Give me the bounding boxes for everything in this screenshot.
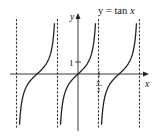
y-tick-label: 1: [69, 58, 74, 68]
x-tick-label-numerator: π: [97, 78, 101, 85]
x-axis-label: x: [144, 79, 150, 89]
tan-plot: y = tan x y x 1 π 2: [0, 0, 157, 138]
y-axis-arrow-icon: [76, 13, 81, 19]
y-axis-label: y: [69, 12, 75, 22]
x-axis-arrow-icon: [143, 72, 149, 77]
title-label: y = tan x: [98, 5, 135, 16]
x-tick-label-denominator: 2: [97, 86, 100, 93]
